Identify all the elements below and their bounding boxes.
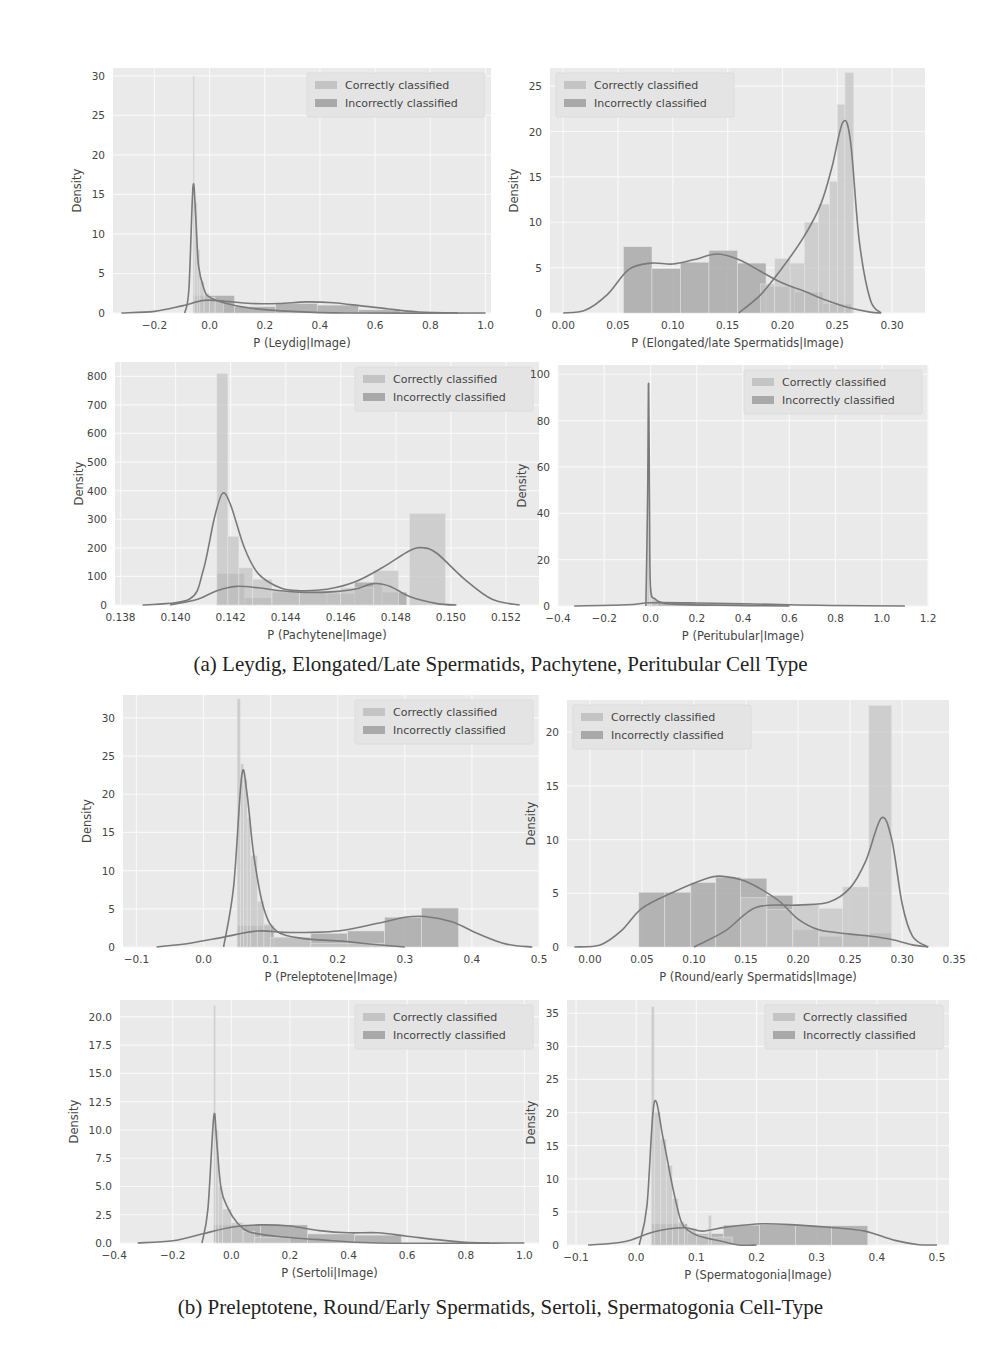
x-tick-label: 0.4 <box>312 319 329 331</box>
legend-label-correct: Correctly classified <box>393 373 497 386</box>
legend-swatch-incorrect <box>315 99 337 107</box>
x-tick-label: 0.0 <box>628 1251 645 1263</box>
bar-incorrect <box>709 250 738 313</box>
y-axis-label: Density <box>507 168 521 212</box>
legend-label-incorrect: Incorrectly classified <box>345 97 458 110</box>
bar-incorrect <box>665 892 691 947</box>
x-tick-label: 0.6 <box>781 612 798 624</box>
x-tick-label: 0.2 <box>688 612 705 624</box>
x-tick-label: −0.2 <box>142 319 168 331</box>
x-tick-label: 0.4 <box>464 953 481 965</box>
legend-label-correct: Correctly classified <box>393 1011 497 1024</box>
bar-incorrect <box>680 262 709 313</box>
y-axis-label: Density <box>80 799 94 843</box>
legend-swatch-incorrect <box>363 726 385 734</box>
y-tick-label: 0 <box>543 600 550 612</box>
y-tick-label: 0 <box>552 1239 559 1251</box>
bar-correct <box>761 284 775 313</box>
x-tick-label: 0.30 <box>890 953 913 965</box>
y-axis-label: Density <box>515 463 529 507</box>
x-tick-label: 0.4 <box>868 1251 885 1263</box>
y-tick-label: 20.0 <box>89 1011 112 1023</box>
y-tick-label: 200 <box>87 542 107 554</box>
chart-svg: −0.10.00.10.20.30.40.5051015202530P (Pre… <box>48 695 498 995</box>
legend-swatch-incorrect <box>752 396 774 404</box>
legend-label-correct: Correctly classified <box>393 706 497 719</box>
legend-swatch-correct <box>773 1013 795 1021</box>
legend-swatch-incorrect <box>773 1031 795 1039</box>
y-tick-label: 10 <box>92 228 105 240</box>
x-tick-label: 0.148 <box>381 611 411 623</box>
y-tick-label: 0 <box>535 307 542 319</box>
x-tick-label: 0.05 <box>606 319 629 331</box>
x-tick-label: 0.0 <box>223 1249 240 1261</box>
bar-correct <box>767 909 793 947</box>
legend: Correctly classifiedIncorrectly classifi… <box>573 705 751 749</box>
y-tick-label: 80 <box>537 415 550 427</box>
x-tick-label: 0.4 <box>340 1249 357 1261</box>
y-axis-label: Density <box>524 1100 538 1144</box>
x-tick-label: 0.140 <box>161 611 191 623</box>
y-tick-label: 25 <box>92 109 105 121</box>
y-tick-label: 600 <box>87 427 107 439</box>
y-axis-label: Density <box>67 1099 81 1143</box>
x-tick-label: 0.2 <box>748 1251 765 1263</box>
legend-label-correct: Correctly classified <box>803 1011 907 1024</box>
x-axis-label: P (Elongated/late Spermatids|Image) <box>631 336 843 350</box>
x-tick-label: 0.2 <box>256 319 273 331</box>
bar-correct <box>819 908 843 947</box>
chart-preleptotene: −0.10.00.10.20.30.40.5051015202530P (Pre… <box>48 695 498 995</box>
x-tick-label: 0.2 <box>282 1249 299 1261</box>
y-tick-label: 40 <box>537 507 550 519</box>
y-tick-label: 300 <box>87 513 107 525</box>
legend: Correctly classifiedIncorrectly classifi… <box>307 73 485 117</box>
chart-svg: −0.20.00.20.40.60.81.0051015202530P (Ley… <box>48 68 491 360</box>
y-axis-label: Density <box>72 461 86 505</box>
y-tick-label: 15 <box>102 826 115 838</box>
y-tick-label: 20 <box>92 149 105 161</box>
y-tick-label: 5 <box>535 262 542 274</box>
chart-round-early-spermatids: 0.000.050.100.150.200.250.300.3505101520… <box>495 700 955 995</box>
chart-svg: −0.4−0.20.00.20.40.60.81.00.02.55.07.510… <box>48 1000 498 1290</box>
legend-swatch-correct <box>315 81 337 89</box>
x-tick-label: 0.00 <box>578 953 601 965</box>
bar-correct <box>244 779 247 947</box>
y-tick-label: 0 <box>108 941 115 953</box>
chart-leydig: −0.20.00.20.40.60.81.0051015202530P (Ley… <box>48 68 491 360</box>
x-tick-label: −0.1 <box>563 1251 589 1263</box>
x-tick-label: 0.5 <box>929 1251 946 1263</box>
chart-sertoli: −0.4−0.20.00.20.40.60.81.00.02.55.07.510… <box>48 1000 498 1290</box>
x-tick-label: 0.6 <box>399 1249 416 1261</box>
y-axis-label: Density <box>524 801 538 845</box>
y-tick-label: 5 <box>98 267 105 279</box>
y-tick-label: 10 <box>546 1173 559 1185</box>
chart-svg: −0.10.00.10.20.30.40.505101520253035P (S… <box>495 1000 955 1290</box>
y-tick-label: 25 <box>529 80 542 92</box>
legend-swatch-correct <box>564 81 586 89</box>
y-tick-label: 30 <box>546 1040 559 1052</box>
bar-incorrect <box>796 1226 832 1245</box>
x-tick-label: 0.138 <box>105 611 135 623</box>
bar-correct <box>247 817 250 947</box>
y-tick-label: 10.0 <box>89 1124 112 1136</box>
x-tick-label: 0.3 <box>396 953 413 965</box>
x-tick-label: 0.10 <box>661 319 684 331</box>
y-tick-label: 15 <box>546 780 559 792</box>
x-axis-label: P (Peritubular|Image) <box>682 629 804 643</box>
bar-correct <box>228 536 239 605</box>
chart-elongated-late-spermatids: 0.000.050.100.150.200.250.300510152025P … <box>495 68 935 360</box>
x-tick-label: 0.05 <box>630 953 653 965</box>
legend-swatch-correct <box>752 378 774 386</box>
y-tick-label: 20 <box>102 788 115 800</box>
y-tick-label: 15 <box>529 171 542 183</box>
legend-label-incorrect: Incorrectly classified <box>393 724 506 737</box>
chart-svg: 0.1380.1400.1420.1440.1460.1480.1500.152… <box>48 362 491 652</box>
x-tick-label: 0.4 <box>735 612 752 624</box>
legend-swatch-correct <box>581 713 603 721</box>
legend-label-incorrect: Incorrectly classified <box>393 1029 506 1042</box>
x-tick-label: 0.25 <box>826 319 849 331</box>
x-axis-label: P (Leydig|Image) <box>253 336 350 350</box>
x-tick-label: 0.0 <box>201 319 218 331</box>
x-tick-label: 0.1 <box>262 953 279 965</box>
legend-label-incorrect: Incorrectly classified <box>782 394 895 407</box>
